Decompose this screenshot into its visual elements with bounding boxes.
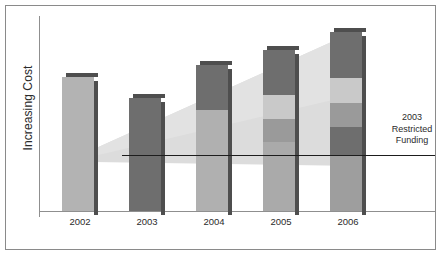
x-tick-label-2005: 2005: [251, 216, 311, 227]
bar-2006: [330, 32, 362, 211]
bar-2004-segment-2: [196, 110, 228, 211]
bar-2006-segment-4: [330, 127, 362, 155]
x-axis-line: [39, 211, 435, 212]
bar-2006-segment-2: [330, 78, 362, 103]
funding-annotation-line-3: Funding: [383, 135, 435, 147]
x-tick-label-2002: 2002: [50, 216, 110, 227]
x-tick-label-2004: 2004: [184, 216, 244, 227]
bar-2006-segment-1: [330, 32, 362, 78]
bar-2005-segment-2: [263, 95, 295, 119]
bar-2006-segment-5: [330, 155, 362, 211]
restricted-funding-line: [122, 155, 435, 156]
bar-2005-segment-4: [263, 142, 295, 211]
bar-2002: [62, 77, 94, 211]
bar-2003-side: [161, 102, 165, 215]
bar-2002-side: [94, 81, 98, 215]
bar-2006-side: [362, 36, 366, 215]
x-tick-label-2003: 2003: [117, 216, 177, 227]
funding-annotation-line-2: Restricted: [383, 124, 435, 136]
chart-figure: 2003 Restricted Funding Increasing Cost …: [0, 0, 443, 257]
bar-2005-segment-3: [263, 119, 295, 142]
x-tick-label-2006: 2006: [318, 216, 378, 227]
bar-2006-segment-3: [330, 103, 362, 127]
bar-2004-segment-1: [196, 65, 228, 110]
y-axis-line: [39, 16, 40, 217]
funding-annotation-line-1: 2003: [383, 112, 435, 124]
y-axis-title: Increasing Cost: [21, 38, 35, 178]
bar-2004: [196, 65, 228, 211]
bar-2005: [263, 50, 295, 211]
bar-2005-side: [295, 54, 299, 215]
plot-area: 2003 Restricted Funding Increasing Cost …: [6, 6, 435, 249]
bar-2002-segment-1: [62, 77, 94, 211]
bar-2004-side: [228, 69, 232, 215]
funding-annotation: 2003 Restricted Funding: [383, 112, 435, 147]
bar-2005-segment-1: [263, 50, 295, 95]
